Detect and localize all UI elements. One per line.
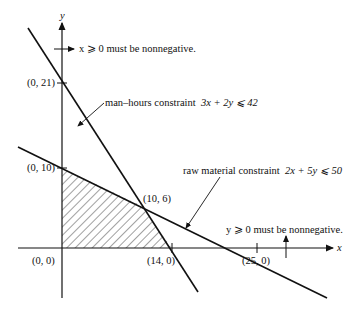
x-axis-label: x bbox=[337, 243, 342, 254]
raw-material-text: raw material constraint bbox=[183, 165, 280, 176]
x-nonneg-label: x ⩾ 0 must be nonnegative. bbox=[79, 44, 196, 55]
point-10-6: (10, 6) bbox=[143, 194, 171, 205]
raw-material-label: raw material constraint 2x + 5y ⩽ 50 bbox=[183, 166, 342, 177]
man-hours-inequality: 3x + 2y ⩽ 42 bbox=[201, 97, 258, 108]
point-0-0: (0, 0) bbox=[32, 256, 55, 267]
man-hours-leader bbox=[78, 103, 104, 126]
feasible-region bbox=[62, 168, 172, 248]
y-nonneg-label: y ⩾ 0 must be nonnegative. bbox=[226, 225, 343, 236]
man-hours-text: man–hours constraint bbox=[105, 97, 196, 108]
point-0-21: (0, 21) bbox=[27, 78, 55, 89]
y-axis-label: y bbox=[60, 11, 65, 22]
point-25-0: (25, 0) bbox=[242, 256, 270, 267]
raw-material-leader bbox=[186, 177, 220, 228]
point-14-0: (14, 0) bbox=[147, 256, 175, 267]
point-0-10: (0, 10) bbox=[27, 163, 55, 174]
man-hours-label: man–hours constraint 3x + 2y ⩽ 42 bbox=[105, 98, 258, 109]
raw-material-inequality: 2x + 5y ⩽ 50 bbox=[285, 165, 342, 176]
